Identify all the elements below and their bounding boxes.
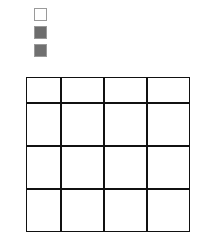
grid-divider-v [103, 77, 105, 232]
grid-divider-h [26, 188, 190, 190]
color-legend [34, 5, 53, 59]
grid-divider-v [146, 77, 148, 232]
chart-grid [26, 77, 190, 232]
natural-swatch-icon [34, 8, 47, 21]
grid-divider-h [26, 102, 190, 104]
grid-divider-h [26, 145, 190, 147]
legend-natural [34, 5, 53, 23]
knitting-chart [26, 77, 190, 232]
grid-divider-v [60, 77, 62, 232]
legend-lt-brown [34, 23, 53, 41]
lt-brown-swatch-icon [34, 26, 47, 39]
legend-scrap-color [34, 41, 53, 59]
scrap-color-swatch-icon [34, 44, 47, 57]
